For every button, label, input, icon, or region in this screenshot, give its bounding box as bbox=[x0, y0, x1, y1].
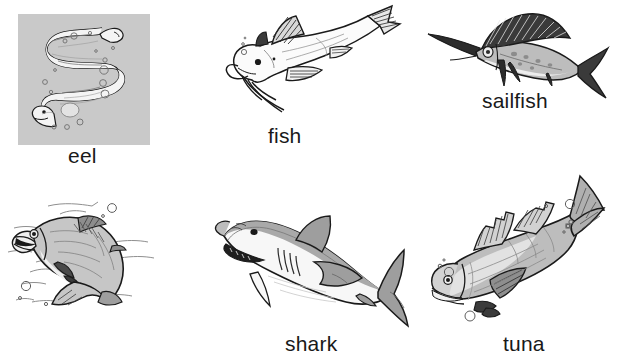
picture-label-tuna: tuna bbox=[503, 333, 545, 354]
picture-label-eel: eel bbox=[68, 145, 97, 166]
salmon-drawing bbox=[2, 192, 162, 322]
worksheet-page: eel bbox=[0, 0, 618, 361]
shark-drawing bbox=[210, 196, 410, 331]
picture-label-shark: shark bbox=[285, 333, 337, 354]
picture-card-shark[interactable]: shark bbox=[206, 180, 412, 361]
picture-card-sailfish[interactable]: sailfish bbox=[412, 0, 618, 180]
picture-label-fish: fish bbox=[268, 125, 301, 146]
picture-card-salmon[interactable]: salmon bbox=[0, 180, 206, 361]
picture-label-sailfish: sailfish bbox=[482, 90, 548, 111]
sailfish-drawing bbox=[420, 8, 610, 98]
eel-drawing bbox=[18, 14, 150, 145]
picture-card-eel[interactable]: eel bbox=[0, 0, 206, 180]
tuna-drawing bbox=[418, 174, 613, 324]
picture-card-fish[interactable]: fish bbox=[206, 0, 412, 180]
picture-card-tuna[interactable]: tuna bbox=[412, 180, 618, 361]
catfish-drawing bbox=[212, 4, 402, 124]
